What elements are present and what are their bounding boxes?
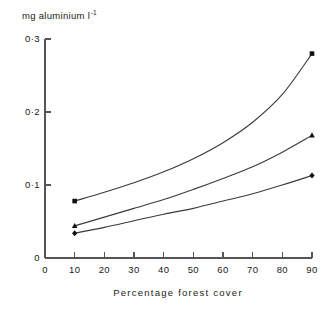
y-tick-label-0·2: 0·2 — [25, 106, 40, 117]
y-axis-title: mg aluminium l — [22, 10, 90, 21]
data-point-marker-square — [72, 199, 77, 204]
x-tick-label-0: 0 — [42, 264, 48, 275]
data-point-marker-diamond — [72, 230, 77, 236]
x-tick-label-20: 20 — [99, 264, 110, 275]
x-tick-label-90: 90 — [306, 264, 317, 275]
x-tick-label-40: 40 — [158, 264, 169, 275]
x-tick-label-50: 50 — [188, 264, 199, 275]
series-series-middle — [72, 132, 315, 228]
y-tick-label-0: 0 — [34, 252, 40, 263]
x-tick-label-80: 80 — [277, 264, 288, 275]
series-line-series-upper — [75, 54, 312, 201]
series-layer — [72, 51, 315, 236]
x-axis-title: Percentage forest cover — [113, 287, 243, 298]
series-series-lower — [72, 173, 315, 237]
chart-figure: mg aluminium l -1 00·10·20·3 01020304050… — [0, 0, 322, 315]
series-line-series-middle — [75, 135, 312, 226]
x-tick-label-70: 70 — [247, 264, 258, 275]
series-series-upper — [72, 51, 314, 203]
y-tick-label-0·3: 0·3 — [25, 33, 40, 44]
y-tick-label-0·1: 0·1 — [25, 179, 40, 190]
series-line-series-lower — [75, 176, 312, 234]
chart-canvas: mg aluminium l -1 00·10·20·3 01020304050… — [0, 0, 322, 315]
data-point-marker-diamond — [309, 173, 314, 179]
y-axis-ticks: 00·10·20·3 — [25, 33, 51, 263]
y-axis-title-superscript: -1 — [91, 9, 97, 16]
data-point-marker-square — [310, 51, 315, 56]
x-tick-label-30: 30 — [128, 264, 139, 275]
x-axis-ticks: 0102030405060708090 — [42, 252, 318, 275]
data-point-marker-triangle — [309, 132, 315, 137]
x-tick-label-60: 60 — [217, 264, 228, 275]
y-axis-title-group: mg aluminium l -1 — [22, 9, 97, 21]
x-tick-label-10: 10 — [69, 264, 80, 275]
